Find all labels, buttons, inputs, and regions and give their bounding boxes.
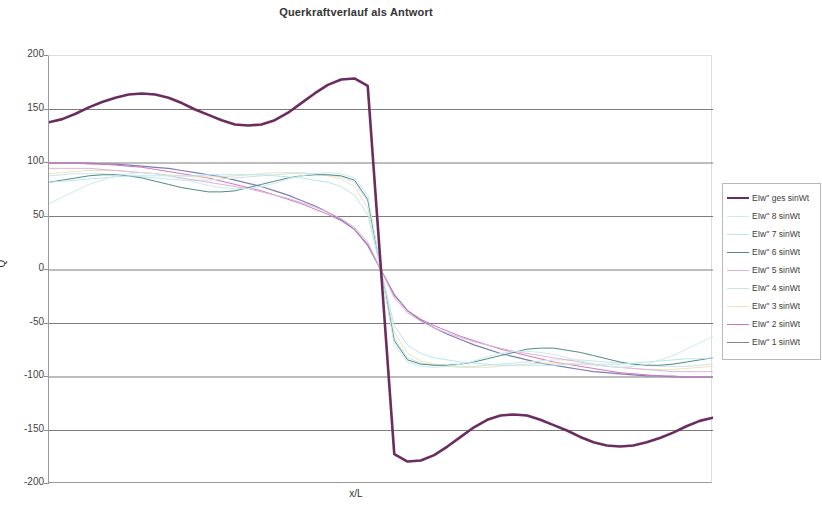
legend-color-swatch bbox=[727, 216, 749, 217]
legend-item-label: EIw'' 2 sinWt bbox=[752, 319, 800, 329]
legend-item[interactable]: EIw'' 3 sinWt bbox=[727, 297, 818, 315]
legend-item[interactable]: EIw'' 4 sinWt bbox=[727, 279, 818, 297]
legend-color-swatch bbox=[727, 234, 749, 235]
legend-color-swatch bbox=[727, 342, 749, 343]
legend-item[interactable]: EIw'' 7 sinWt bbox=[727, 225, 818, 243]
y-tick-label: -50 bbox=[0, 316, 44, 327]
legend-color-swatch bbox=[727, 252, 749, 253]
legend-item[interactable]: EIw'' 5 sinWt bbox=[727, 261, 818, 279]
chart-title: Querkraftverlauf als Antwort bbox=[0, 6, 712, 18]
legend-color-swatch bbox=[727, 288, 749, 289]
y-tick-label: 0 bbox=[0, 262, 44, 273]
y-tick-label: 100 bbox=[0, 155, 44, 166]
legend-item-label: EIw'' ges sinWt bbox=[752, 193, 809, 203]
x-axis-label: x/L bbox=[0, 488, 712, 499]
legend-item[interactable]: EIw'' 2 sinWt bbox=[727, 315, 818, 333]
legend-color-swatch bbox=[727, 324, 749, 325]
legend-item-label: EIw'' 3 sinWt bbox=[752, 301, 800, 311]
legend-item-label: EIw'' 1 sinWt bbox=[752, 337, 800, 347]
chart-canvas bbox=[49, 56, 713, 484]
legend-item-label: EIw'' 7 sinWt bbox=[752, 229, 800, 239]
y-tick-label: 200 bbox=[0, 48, 44, 59]
legend-item[interactable]: EIw'' ges sinWt bbox=[727, 189, 818, 207]
plot-area bbox=[48, 55, 712, 483]
legend-color-swatch bbox=[727, 270, 749, 271]
y-tick-label: 150 bbox=[0, 102, 44, 113]
legend-item[interactable]: EIw'' 1 sinWt bbox=[727, 333, 818, 351]
legend-item-label: EIw'' 5 sinWt bbox=[752, 265, 800, 275]
chart-legend: EIw'' ges sinWtEIw'' 8 sinWtEIw'' 7 sinW… bbox=[722, 183, 821, 360]
y-tick-label: -100 bbox=[0, 369, 44, 380]
legend-item-label: EIw'' 8 sinWt bbox=[752, 211, 800, 221]
y-tick-label: -200 bbox=[0, 476, 44, 487]
legend-color-swatch bbox=[727, 197, 749, 199]
y-tick-label: -150 bbox=[0, 423, 44, 434]
legend-color-swatch bbox=[727, 306, 749, 307]
legend-item-label: EIw'' 6 sinWt bbox=[752, 247, 800, 257]
y-axis-tick-labels: 200150100500-50-100-150-200 bbox=[0, 55, 44, 483]
legend-item[interactable]: EIw'' 6 sinWt bbox=[727, 243, 818, 261]
legend-item[interactable]: EIw'' 8 sinWt bbox=[727, 207, 818, 225]
legend-item-label: EIw'' 4 sinWt bbox=[752, 283, 800, 293]
y-tick-label: 50 bbox=[0, 209, 44, 220]
